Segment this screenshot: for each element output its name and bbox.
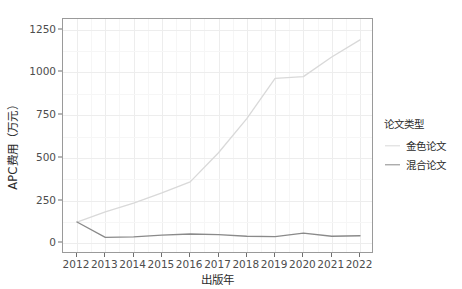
legend-key-icon	[384, 137, 401, 154]
legend-item-label: 混合论文	[406, 157, 446, 172]
legend-items: 金色论文混合论文	[384, 137, 462, 173]
y-tick-label: 250	[36, 194, 56, 206]
x-tick-mark	[133, 253, 134, 257]
x-tick-label: 2013	[91, 258, 118, 270]
legend-key-icon	[384, 156, 401, 173]
x-tick-label: 2022	[346, 258, 373, 270]
legend-item-0[interactable]: 金色论文	[384, 137, 462, 154]
x-tick-label: 2018	[232, 258, 259, 270]
y-tick-label: 750	[36, 108, 56, 120]
y-tick-label: 1250	[29, 23, 56, 35]
x-tick-mark	[76, 253, 77, 257]
x-tick-label: 2014	[119, 258, 146, 270]
x-tick-label: 2012	[63, 258, 90, 270]
x-tick-mark	[274, 253, 275, 257]
y-axis-title: APC费用（万元）	[0, 0, 24, 289]
x-tick-mark	[189, 253, 190, 257]
x-tick-label: 2015	[148, 258, 175, 270]
legend: 论文类型 金色论文混合论文	[384, 116, 462, 175]
series-layer	[63, 19, 373, 253]
x-tick-mark	[302, 253, 303, 257]
x-tick-label: 2017	[204, 258, 231, 270]
x-axis-tick-labels: 2012201320142015201620172018201920202021…	[62, 258, 373, 272]
x-tick-mark	[104, 253, 105, 257]
series-line-0	[77, 40, 360, 222]
y-axis-tick-labels: 025050075010001250	[24, 18, 62, 253]
legend-item-label: 金色论文	[406, 138, 446, 153]
line-chart: APC费用（万元） 025050075010001250 20122013201…	[0, 0, 462, 289]
y-tick-label: 500	[36, 151, 56, 163]
x-tick-label: 2019	[261, 258, 288, 270]
legend-item-1[interactable]: 混合论文	[384, 156, 462, 173]
x-tick-label: 2020	[289, 258, 316, 270]
legend-title: 论文类型	[384, 116, 462, 131]
x-tick-mark	[246, 253, 247, 257]
x-tick-label: 2016	[176, 258, 203, 270]
x-tick-mark	[359, 253, 360, 257]
x-tick-mark	[161, 253, 162, 257]
series-line-1	[77, 222, 360, 237]
x-tick-label: 2021	[317, 258, 344, 270]
y-tick-label: 1000	[29, 65, 56, 77]
plot-panel	[62, 18, 373, 253]
x-axis-title: 出版年	[62, 271, 373, 287]
x-tick-mark	[218, 253, 219, 257]
y-tick-label: 0	[49, 236, 56, 248]
x-tick-mark	[331, 253, 332, 257]
